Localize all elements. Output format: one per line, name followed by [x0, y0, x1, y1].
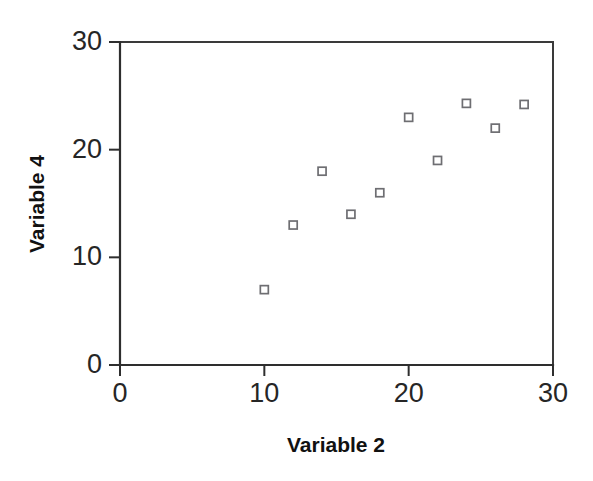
plot-area-background — [120, 42, 553, 365]
y-axis-title: Variable 4 — [25, 155, 48, 253]
x-tick-label-20: 20 — [394, 378, 424, 408]
y-tick-label-20: 20 — [72, 134, 102, 164]
data-point — [491, 124, 499, 132]
plot-canvas: 0102030 0102030 Variable 4 Variable 2 — [0, 0, 593, 481]
x-tick-label-30: 30 — [538, 378, 568, 408]
y-tick-label-30: 30 — [72, 26, 102, 56]
data-point — [318, 167, 326, 175]
data-point — [289, 221, 297, 229]
data-point — [376, 189, 384, 197]
y-tick-label-0: 0 — [87, 349, 102, 379]
x-tick-label-0: 0 — [112, 378, 127, 408]
y-tick-label-10: 10 — [72, 241, 102, 271]
data-point — [347, 210, 355, 218]
data-point — [260, 286, 268, 294]
data-point — [520, 100, 528, 108]
data-point — [405, 113, 413, 121]
data-point — [434, 156, 442, 164]
x-tick-label-10: 10 — [249, 378, 279, 408]
scatter-plot-figure: 0102030 0102030 Variable 4 Variable 2 — [0, 0, 593, 481]
x-axis-title: Variable 2 — [287, 433, 385, 456]
data-point — [462, 99, 470, 107]
